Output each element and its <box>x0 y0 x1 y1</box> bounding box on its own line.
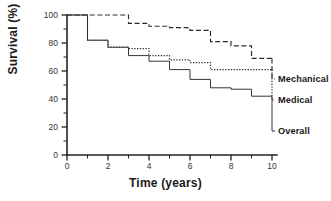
x-tick-label-8: 8 <box>229 161 234 171</box>
legend-label-mechanical: Mechanical <box>278 74 329 84</box>
y-axis-title-wrapper: Survival (%) <box>6 0 20 104</box>
series-line-mechanical <box>67 15 272 58</box>
y-tick-label-20: 20 <box>49 122 59 132</box>
legend-label-overall: Overall <box>278 126 310 136</box>
leader-line-overall <box>272 96 275 131</box>
y-tick-label-80: 80 <box>49 38 59 48</box>
y-tick-label-40: 40 <box>49 94 59 104</box>
x-axis-group: 0 2 4 6 8 10 <box>65 155 277 171</box>
legend-label-medical: Medical <box>278 95 312 105</box>
series-group <box>67 15 275 131</box>
x-axis-title: Time (years) <box>0 176 331 190</box>
x-tick-label-2: 2 <box>106 161 111 171</box>
y-tick-label-0: 0 <box>53 150 58 160</box>
y-tick-label-100: 100 <box>44 10 58 20</box>
y-axis-group: 100 80 60 40 20 0 <box>44 10 67 160</box>
survival-curve-figure: 100 80 60 40 20 0 0 2 4 6 8 10 <box>0 0 331 201</box>
y-tick-label-60: 60 <box>49 66 59 76</box>
y-axis-title: Survival (%) <box>6 0 20 104</box>
x-tick-label-6: 6 <box>188 161 193 171</box>
x-tick-label-4: 4 <box>147 161 152 171</box>
x-tick-label-10: 10 <box>267 161 277 171</box>
x-tick-label-0: 0 <box>65 161 70 171</box>
